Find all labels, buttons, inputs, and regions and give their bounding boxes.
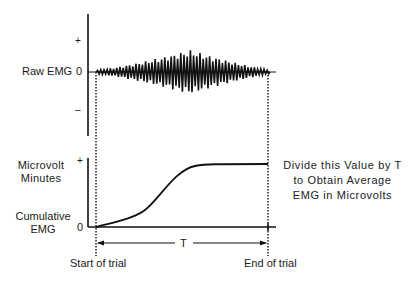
raw-emg-minus-tick: – xyxy=(75,103,81,116)
raw-emg-plus-tick: + xyxy=(75,34,81,47)
end-of-trial-label: End of trial xyxy=(244,257,297,270)
raw-emg-signal xyxy=(96,50,270,92)
cumulative-plus-tick: + xyxy=(77,154,83,167)
microvolt-minutes-label: Microvolt Minutes xyxy=(14,159,68,185)
raw-emg-zero-tick: 0 xyxy=(76,65,82,78)
cumulative-zero-tick: 0 xyxy=(77,221,83,234)
emg-diagram xyxy=(0,0,414,282)
raw-emg-label: Raw EMG xyxy=(22,65,72,78)
interval-t-label: T xyxy=(180,237,187,250)
arrowhead-right-icon xyxy=(260,241,267,246)
annotation-line-3: EMG in Microvolts xyxy=(271,189,414,202)
annotation-line-2: to Obtain Average xyxy=(271,174,414,187)
cumulative-emg-curve xyxy=(96,164,268,227)
cumulative-emg-label: Cumulative EMG xyxy=(14,210,72,236)
arrowhead-left-icon xyxy=(97,241,104,246)
cumulative-label: Cumulative xyxy=(14,210,72,223)
microvolt-label: Microvolt xyxy=(14,159,68,172)
emg-label: EMG xyxy=(14,223,72,236)
average-emg-annotation: Divide this Value by T to Obtain Average… xyxy=(271,159,414,202)
minutes-label: Minutes xyxy=(14,172,68,185)
start-of-trial-label: Start of trial xyxy=(70,257,126,270)
annotation-line-1: Divide this Value by T xyxy=(271,159,414,172)
